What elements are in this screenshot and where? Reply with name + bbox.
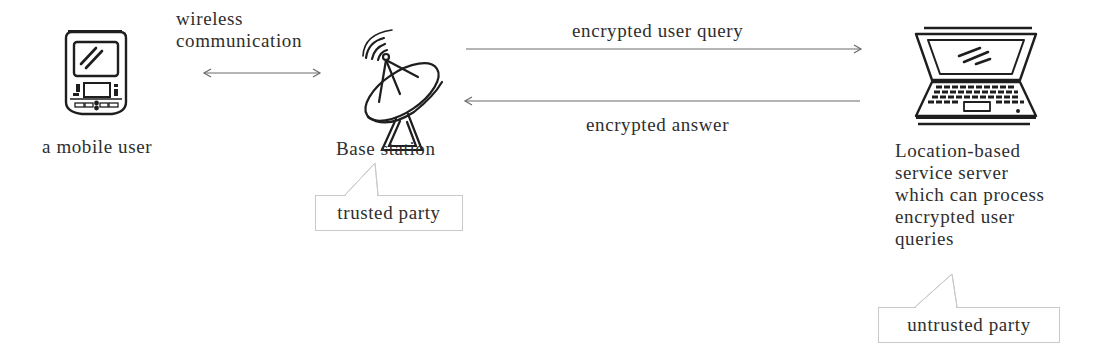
- encrypted-answer-label: encrypted answer: [586, 114, 729, 136]
- pda-mobile-device-icon: [62, 28, 132, 120]
- untrusted-party-label: untrusted party: [907, 314, 1031, 336]
- trusted-party-callout: trusted party: [315, 195, 463, 231]
- satellite-dish-icon: [352, 22, 444, 138]
- trusted-callout-pointer: [345, 163, 378, 195]
- encrypted-user-query-label: encrypted user query: [572, 20, 743, 42]
- wireless-communication-label: wireless communication: [176, 8, 302, 52]
- trusted-party-label: trusted party: [337, 202, 440, 224]
- base-station-label: Base station: [336, 138, 436, 160]
- mobile-user-label: a mobile user: [42, 136, 152, 158]
- untrusted-party-callout: untrusted party: [878, 307, 1060, 343]
- server-label: Location-based service server which can …: [895, 140, 1044, 250]
- laptop-icon: [912, 26, 1044, 130]
- untrusted-callout-pointer: [915, 274, 957, 307]
